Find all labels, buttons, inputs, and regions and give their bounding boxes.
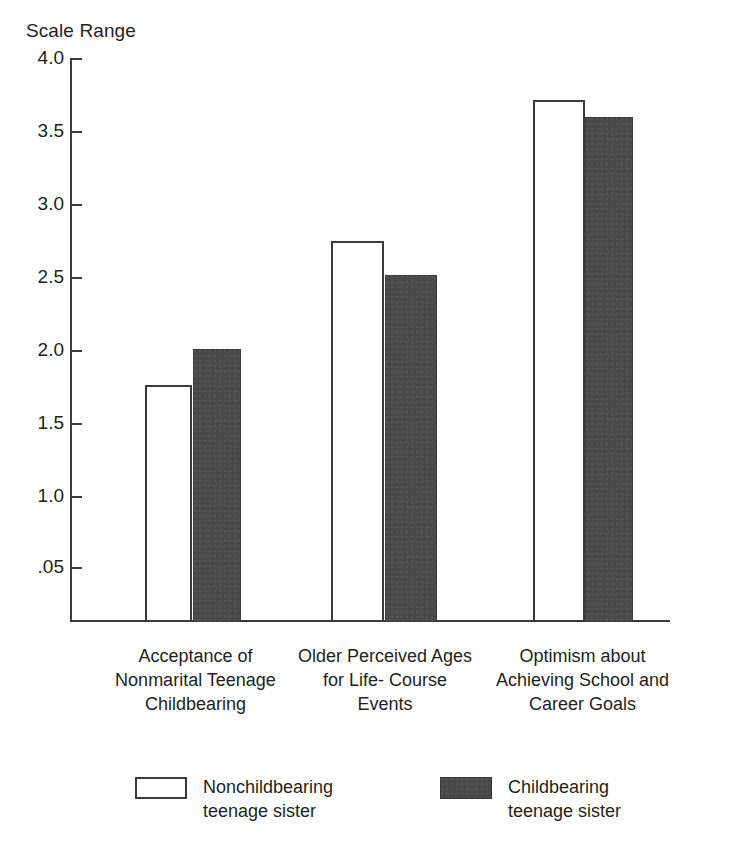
category-label-2: Older Perceived Ages for Life- Course Ev…: [295, 644, 475, 716]
y-tick-label-1: 3.5: [12, 121, 64, 140]
y-tick-mark: [70, 350, 82, 352]
y-tick-label-5: 1.5: [12, 413, 64, 432]
legend-dark-swatch-icon: [440, 777, 492, 799]
bar-group-3-nonchildbearing: [533, 100, 585, 622]
legend-light-swatch-icon: [135, 777, 187, 799]
bar-group-1-childbearing: [193, 349, 241, 622]
y-tick-label-0: 4.0: [12, 48, 64, 67]
y-tick-label-2: 3.0: [12, 194, 64, 213]
y-tick-mark: [70, 204, 82, 206]
bar-chart-figure: Scale Range 4.0 3.5 3.0 2.5 2.0 1.5: [0, 0, 750, 841]
y-axis-line: [70, 58, 72, 622]
y-tick-mark: [70, 131, 82, 133]
legend-label-nonchildbearing: Nonchildbearing teenage sister: [203, 775, 333, 823]
y-tick-mark: [70, 567, 82, 569]
legend-entry-childbearing: Childbearing teenage sister: [440, 775, 621, 823]
chart-legend: Nonchildbearing teenage sister Childbear…: [0, 775, 750, 835]
category-label-3: Optimism about Achieving School and Care…: [485, 644, 680, 716]
bar-group-1-nonchildbearing: [145, 385, 192, 622]
bar-group-3-childbearing: [585, 117, 633, 622]
y-tick-label-3: 2.5: [12, 267, 64, 286]
y-tick-mark: [70, 58, 82, 60]
bar-group-2-nonchildbearing: [331, 241, 384, 622]
y-tick-mark: [70, 496, 82, 498]
plot-area: 4.0 3.5 3.0 2.5 2.0 1.5 1.0 .05: [0, 0, 750, 841]
y-tick-label-6: 1.0: [12, 486, 64, 505]
y-tick-label-4: 2.0: [12, 340, 64, 359]
y-tick-mark: [70, 423, 82, 425]
bar-group-2-childbearing: [385, 275, 437, 622]
y-tick-mark: [70, 277, 82, 279]
category-label-1: Acceptance of Nonmarital Teenage Childbe…: [108, 644, 283, 716]
y-tick-label-7: .05: [12, 557, 64, 576]
legend-entry-nonchildbearing: Nonchildbearing teenage sister: [135, 775, 333, 823]
legend-label-childbearing: Childbearing teenage sister: [508, 775, 621, 823]
